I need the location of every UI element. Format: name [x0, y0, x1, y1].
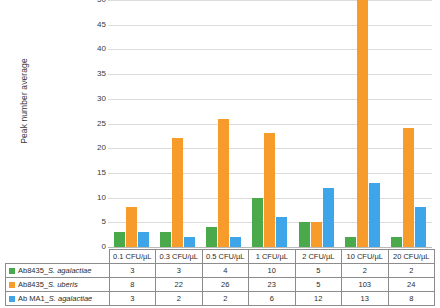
table-cell-value: 4	[202, 264, 249, 278]
legend-entry: Ab MA1_S. agalactiae	[6, 292, 110, 306]
bar	[276, 217, 287, 247]
legend-swatch-icon	[9, 282, 15, 288]
bar-group	[293, 0, 339, 247]
bar	[357, 0, 368, 247]
y-tick-label: 50	[82, 0, 106, 4]
table-cell-value: 8	[388, 292, 435, 306]
legend-label-prefix: Ab8435_	[18, 280, 48, 289]
legend-label-species: S. agalactiae	[49, 294, 92, 303]
column-header: 0.5 CFU/µL	[202, 250, 249, 264]
table-cell-value: 6	[249, 292, 296, 306]
legend-label-prefix: Ab8435_	[18, 266, 48, 275]
plot-area: Peak number average 50454035302520151050	[0, 0, 440, 252]
bar-group	[108, 0, 154, 247]
bar	[160, 232, 171, 247]
table-cell-value: 103	[342, 278, 389, 292]
bar-group	[201, 0, 247, 247]
bar	[264, 133, 275, 247]
bar	[252, 198, 263, 247]
y-tick-label: 45	[82, 21, 106, 29]
legend-label-prefix: Ab MA1_	[18, 294, 49, 303]
y-tick-label: 25	[82, 120, 106, 128]
column-header: 0.3 CFU/µL	[156, 250, 203, 264]
legend-label-species: S. agalactiae	[48, 266, 91, 275]
y-tick-label: 20	[82, 144, 106, 152]
table-cell-value: 10	[249, 264, 296, 278]
chart-figure: Peak number average 50454035302520151050…	[0, 0, 440, 308]
column-header: 20 CFU/µL	[388, 250, 435, 264]
bar	[369, 183, 380, 247]
table-corner-cell	[6, 250, 110, 264]
bar	[391, 237, 402, 247]
axis-baseline	[108, 247, 432, 248]
table-cell-value: 2	[388, 264, 435, 278]
y-tick-label: 5	[82, 218, 106, 226]
column-header: 2 CFU/µL	[295, 250, 342, 264]
table-cell-value: 12	[295, 292, 342, 306]
table-cell-value: 5	[295, 278, 342, 292]
table-cell-value: 13	[342, 292, 389, 306]
table-cell-value: 24	[388, 278, 435, 292]
column-header: 1 CFU/µL	[249, 250, 296, 264]
table-cell-value: 8	[109, 278, 156, 292]
table-cell-value: 3	[109, 264, 156, 278]
column-header: 0.1 CFU/µL	[109, 250, 156, 264]
table-cell-value: 3	[156, 264, 203, 278]
table-row: Ab8435_S. uberis8222623510324	[6, 278, 435, 292]
column-header: 10 CFU/µL	[342, 250, 389, 264]
table-cell-value: 23	[249, 278, 296, 292]
y-tick-label: 30	[82, 95, 106, 103]
bar	[403, 128, 414, 247]
bar	[172, 138, 183, 247]
legend-swatch-icon	[9, 268, 15, 274]
y-axis-ticks: 50454035302520151050	[80, 0, 106, 252]
table-cell-value: 22	[156, 278, 203, 292]
table-cell-value: 2	[342, 264, 389, 278]
data-table: 0.1 CFU/µL0.3 CFU/µL0.5 CFU/µL1 CFU/µL2 …	[5, 249, 435, 306]
bar-group	[247, 0, 293, 247]
table-header-row: 0.1 CFU/µL0.3 CFU/µL0.5 CFU/µL1 CFU/µL2 …	[6, 250, 435, 264]
table-cell-value: 5	[295, 264, 342, 278]
bar-group	[154, 0, 200, 247]
bar	[345, 237, 356, 247]
table-cell-value: 2	[156, 292, 203, 306]
bar-group	[386, 0, 432, 247]
bar	[184, 237, 195, 247]
bar	[206, 227, 217, 247]
table-cell-value: 2	[202, 292, 249, 306]
bar	[126, 207, 137, 247]
y-tick-label: 10	[82, 194, 106, 202]
bar-groups	[108, 0, 432, 247]
table-cell-value: 26	[202, 278, 249, 292]
bar	[323, 188, 334, 247]
legend-entry: Ab8435_S. uberis	[6, 278, 110, 292]
y-tick-label: 35	[82, 70, 106, 78]
legend-entry: Ab8435_S. agalactiae	[6, 264, 110, 278]
y-axis-label: Peak number average	[19, 37, 29, 165]
y-tick-label: 40	[82, 45, 106, 53]
bar	[311, 222, 322, 247]
bar	[299, 222, 310, 247]
bar-group	[339, 0, 385, 247]
table-row: Ab8435_S. agalactiae33410522	[6, 264, 435, 278]
table-cell-value: 3	[109, 292, 156, 306]
y-tick-label: 15	[82, 169, 106, 177]
bar	[218, 119, 229, 247]
bar	[138, 232, 149, 247]
bar	[230, 237, 241, 247]
legend-label-species: S. uberis	[48, 280, 78, 289]
bar	[415, 207, 426, 247]
table-row: Ab MA1_S. agalactiae322612138	[6, 292, 435, 306]
bar	[114, 232, 125, 247]
legend-swatch-icon	[9, 296, 15, 302]
